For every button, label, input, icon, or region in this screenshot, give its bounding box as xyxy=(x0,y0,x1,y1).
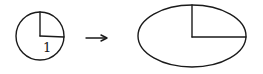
diagram-canvas: 1 xyxy=(0,0,263,74)
unit-circle-figure: 1 xyxy=(16,12,64,60)
transform-arrow xyxy=(86,35,107,41)
radius-label: 1 xyxy=(43,40,51,55)
ellipse-figure xyxy=(138,5,246,67)
circle-horizontal-radius xyxy=(40,36,64,37)
